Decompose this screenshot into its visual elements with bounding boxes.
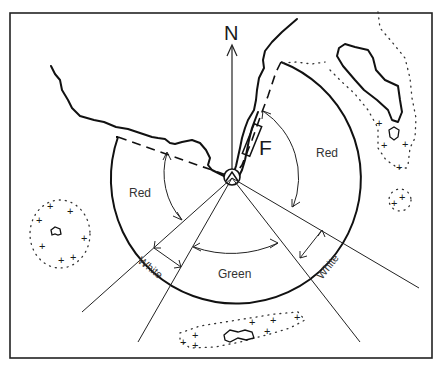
- sector-label-white-east: White: [314, 252, 341, 282]
- sector-light-diagram: N F: [0, 0, 443, 368]
- angle-arcs: [154, 111, 325, 268]
- north-east-island: + + + +: [330, 12, 416, 173]
- hazard-plus-icon: +: [249, 316, 255, 328]
- hazard-plus-icon: +: [180, 336, 186, 348]
- east-rock: + +: [389, 189, 411, 211]
- hazard-plus-icon: +: [47, 200, 53, 212]
- hazard-plus-icon: +: [391, 197, 397, 209]
- north-arrow: N: [224, 22, 238, 176]
- hazard-plus-icon: +: [36, 214, 42, 226]
- hazard-plus-icon: +: [39, 240, 45, 252]
- hazard-plus-icon: +: [192, 339, 198, 351]
- hazard-plus-icon: +: [399, 191, 405, 203]
- sector-label-green: Green: [218, 267, 251, 281]
- west-coastline: [51, 66, 228, 178]
- sector-label-red-east: Red: [316, 146, 338, 160]
- sector-label-white-west: White: [136, 254, 166, 281]
- south-reef: + + + + + + +: [180, 311, 305, 351]
- hazard-plus-icon: +: [396, 161, 402, 173]
- hazard-plus-icon: +: [270, 314, 276, 326]
- chart-frame: [10, 13, 432, 358]
- hazard-plus-icon: +: [381, 139, 387, 151]
- north-label: N: [224, 22, 238, 44]
- hazard-plus-icon: +: [70, 251, 76, 263]
- hazard-plus-icon: +: [81, 232, 87, 244]
- hazard-plus-icon: +: [402, 138, 408, 150]
- hazard-plus-icon: +: [294, 311, 300, 323]
- sector-label-red-west: Red: [129, 186, 151, 200]
- south-west-reef: + + + + + + +: [30, 200, 90, 268]
- hazard-plus-icon: +: [58, 254, 64, 266]
- hazard-plus-icon: +: [67, 205, 73, 217]
- ne-dotted-shore: [283, 62, 325, 64]
- f-label: F: [259, 136, 272, 159]
- hazard-plus-icon: +: [376, 117, 382, 129]
- hazard-plus-icon: +: [264, 325, 270, 337]
